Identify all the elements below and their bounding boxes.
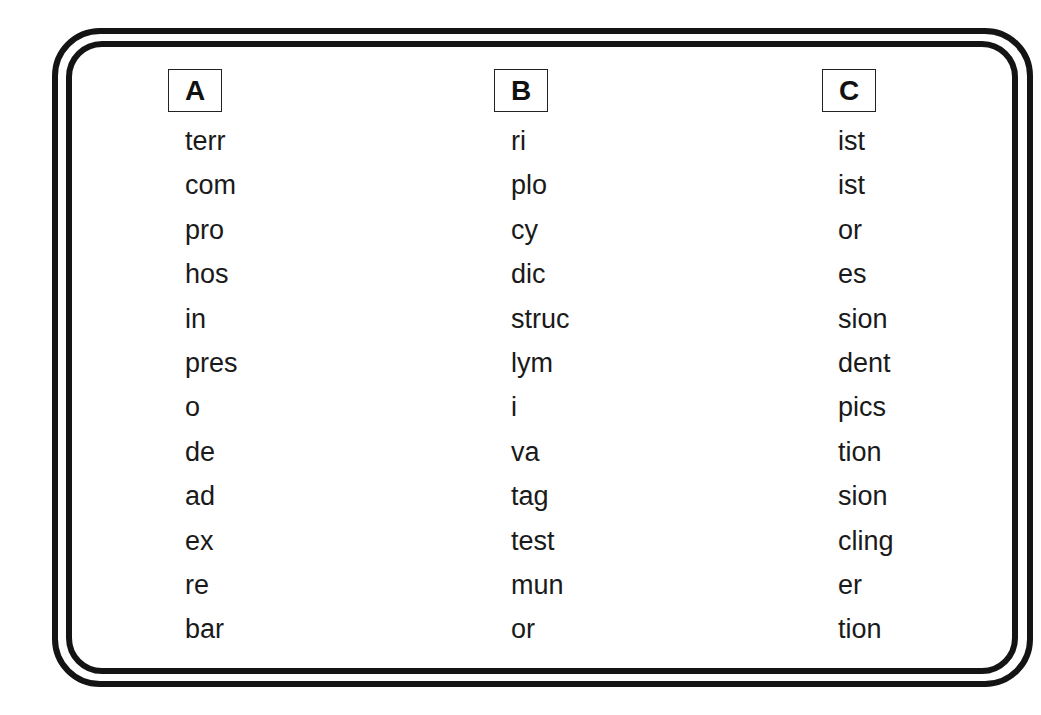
column-c-header: C xyxy=(822,69,876,112)
list-item: mun xyxy=(511,565,570,609)
list-item: es xyxy=(838,254,894,298)
list-item: bar xyxy=(185,609,238,653)
list-item: com xyxy=(185,165,238,209)
list-item: ist xyxy=(838,121,894,165)
list-item: de xyxy=(185,432,238,476)
list-item: terr xyxy=(185,121,238,165)
list-item: or xyxy=(511,609,570,653)
list-item: tion xyxy=(838,432,894,476)
list-item: pics xyxy=(838,387,894,431)
list-item: in xyxy=(185,299,238,343)
list-item: tion xyxy=(838,609,894,653)
list-item: cling xyxy=(838,521,894,565)
column-b-list: ri plo cy dic struc lym i va tag test mu… xyxy=(511,121,570,654)
column-b-header: B xyxy=(494,69,548,112)
list-item: ex xyxy=(185,521,238,565)
column-a-list: terr com pro hos in pres o de ad ex re b… xyxy=(185,121,238,654)
list-item: test xyxy=(511,521,570,565)
column-a-header: A xyxy=(168,69,222,112)
column-c-list: ist ist or es sion dent pics tion sion c… xyxy=(838,121,894,654)
list-item: tag xyxy=(511,476,570,520)
list-item: dic xyxy=(511,254,570,298)
list-item: ad xyxy=(185,476,238,520)
list-item: lym xyxy=(511,343,570,387)
list-item: sion xyxy=(838,476,894,520)
list-item: dent xyxy=(838,343,894,387)
list-item: i xyxy=(511,387,570,431)
list-item: ri xyxy=(511,121,570,165)
list-item: va xyxy=(511,432,570,476)
list-item: struc xyxy=(511,299,570,343)
list-item: er xyxy=(838,565,894,609)
list-item: ist xyxy=(838,165,894,209)
list-item: or xyxy=(838,210,894,254)
list-item: pres xyxy=(185,343,238,387)
list-item: re xyxy=(185,565,238,609)
list-item: o xyxy=(185,387,238,431)
list-item: cy xyxy=(511,210,570,254)
list-item: pro xyxy=(185,210,238,254)
list-item: hos xyxy=(185,254,238,298)
list-item: sion xyxy=(838,299,894,343)
list-item: plo xyxy=(511,165,570,209)
